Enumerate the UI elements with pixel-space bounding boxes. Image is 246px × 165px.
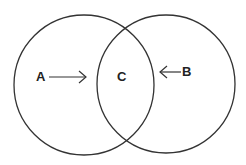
arrow-a-to-c	[49, 71, 86, 83]
label-b: B	[182, 65, 191, 78]
circle-b	[97, 15, 235, 153]
circle-a	[14, 15, 154, 155]
label-a: A	[36, 70, 45, 83]
label-c: C	[117, 70, 126, 83]
arrow-b-to-c	[160, 66, 181, 78]
